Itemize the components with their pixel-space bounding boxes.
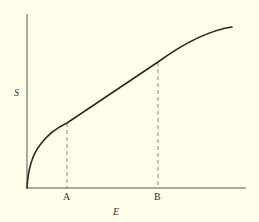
x-tick-label-b: B: [154, 192, 161, 202]
s-e-curve: [27, 27, 232, 188]
x-axis-label: E: [113, 207, 119, 217]
x-tick-label-a: A: [63, 192, 70, 202]
stress-strain-diagram: [0, 0, 259, 222]
y-axis-label: S: [14, 88, 19, 98]
